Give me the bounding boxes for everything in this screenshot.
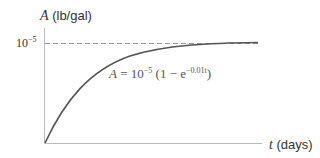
y-tick-base: 10 bbox=[16, 36, 28, 50]
formula-inner-exp: −0.01t bbox=[186, 66, 207, 75]
formula-close: ) bbox=[207, 66, 211, 81]
y-axis-label: A (lb/gal) bbox=[40, 8, 92, 24]
y-axis-var: A bbox=[40, 8, 49, 23]
y-tick-label: 10−5 bbox=[16, 35, 37, 51]
curve-line bbox=[45, 43, 258, 144]
y-tick-exp: −5 bbox=[28, 35, 37, 44]
formula-lhs: A bbox=[109, 66, 117, 81]
formula-annotation: A = 10−5 (1 − e−0.01t) bbox=[109, 66, 211, 82]
y-axis-unit: (lb/gal) bbox=[49, 8, 92, 23]
x-axis-label: t (days) bbox=[269, 137, 313, 153]
formula-eq: = 10 bbox=[117, 66, 144, 81]
x-axis-unit: (days) bbox=[273, 137, 313, 152]
formula-open: (1 − e bbox=[152, 66, 186, 81]
